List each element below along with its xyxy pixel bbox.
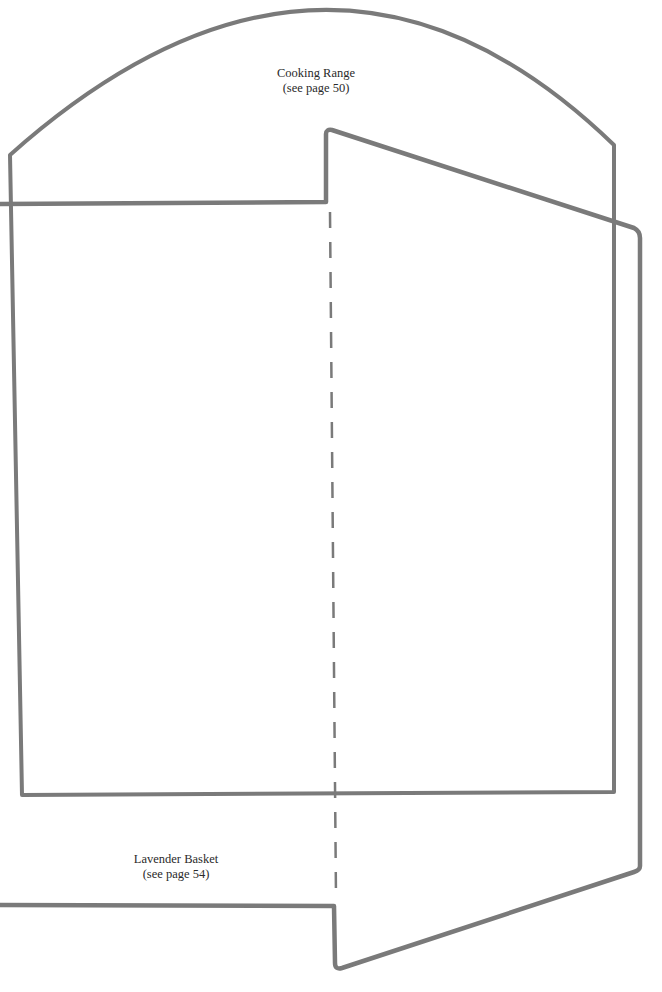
cooking-range-outline <box>10 10 614 795</box>
lavender-basket-title: Lavender Basket <box>76 852 276 867</box>
lavender-basket-reference: (see page 54) <box>76 867 276 882</box>
cooking-range-label: Cooking Range (see page 50) <box>216 66 416 96</box>
lavender-basket-outline <box>0 130 640 969</box>
lavender-basket-label: Lavender Basket (see page 54) <box>76 852 276 882</box>
cooking-range-reference: (see page 50) <box>216 81 416 96</box>
cooking-range-title: Cooking Range <box>216 66 416 81</box>
pattern-sheet <box>0 0 662 992</box>
